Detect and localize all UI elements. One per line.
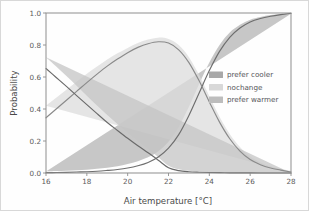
x-tick-label: 28	[286, 177, 296, 186]
y-tick-label: 0.2	[30, 137, 41, 146]
x-tick-label: 26	[246, 177, 256, 186]
x-tick-label: 22	[164, 177, 173, 186]
x-axis-title: Air temperature [°C]	[124, 196, 212, 206]
x-tick-label: 16	[41, 177, 51, 186]
legend-label-prefer-cooler: prefer cooler	[227, 70, 273, 79]
legend-swatch-prefer-cooler	[209, 72, 223, 79]
x-tick-label: 24	[205, 177, 215, 186]
legend-swatch-nochange	[209, 84, 223, 91]
y-tick-label: 1.0	[30, 9, 42, 18]
y-tick-label: 0.4	[30, 105, 42, 114]
y-tick-label: 0.6	[30, 73, 42, 82]
y-tick-label: 0.0	[30, 169, 42, 178]
x-tick-label: 20	[123, 177, 133, 186]
y-tick-label: 0.8	[30, 41, 42, 50]
chart-figure: 161820222426280.00.20.40.60.81.0 prefer …	[0, 0, 309, 211]
legend-swatch-prefer-warmer	[209, 97, 223, 104]
legend-label-prefer-warmer: prefer warmer	[227, 95, 279, 104]
y-axis-title: Probability	[9, 70, 19, 115]
legend-label-nochange: nochange	[227, 83, 263, 92]
x-tick-label: 18	[82, 177, 92, 186]
legend: prefer coolernochangeprefer warmer	[209, 70, 279, 104]
probability-line-chart: 161820222426280.00.20.40.60.81.0 prefer …	[1, 1, 309, 211]
